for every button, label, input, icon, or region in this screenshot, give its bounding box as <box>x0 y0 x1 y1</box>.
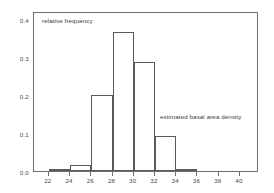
x-tick-label: 28 <box>108 177 115 184</box>
x-tick-mark <box>90 172 91 176</box>
x-tick-mark <box>133 172 134 176</box>
y-axis-label: relative frequency <box>42 17 93 24</box>
x-tick-label: 34 <box>172 177 179 184</box>
x-axis: 22242628303234363840 <box>0 0 274 193</box>
x-tick-mark <box>112 172 113 176</box>
x-tick-mark <box>218 172 219 176</box>
x-tick-mark <box>69 172 70 176</box>
x-axis-label: estimated basal area density <box>160 113 242 120</box>
x-tick-mark <box>48 172 49 176</box>
x-tick-label: 30 <box>129 177 136 184</box>
x-tick-mark <box>175 172 176 176</box>
x-tick-label: 26 <box>87 177 94 184</box>
x-tick-mark <box>154 172 155 176</box>
x-tick-label: 24 <box>65 177 72 184</box>
x-tick-label: 32 <box>150 177 157 184</box>
x-tick-mark <box>239 172 240 176</box>
histogram-figure: 0.00.10.20.30.4 22242628303234363840 rel… <box>0 0 274 193</box>
x-tick-label: 22 <box>44 177 51 184</box>
x-tick-label: 36 <box>193 177 200 184</box>
x-tick-label: 40 <box>235 177 242 184</box>
x-tick-label: 38 <box>214 177 221 184</box>
x-tick-mark <box>196 172 197 176</box>
